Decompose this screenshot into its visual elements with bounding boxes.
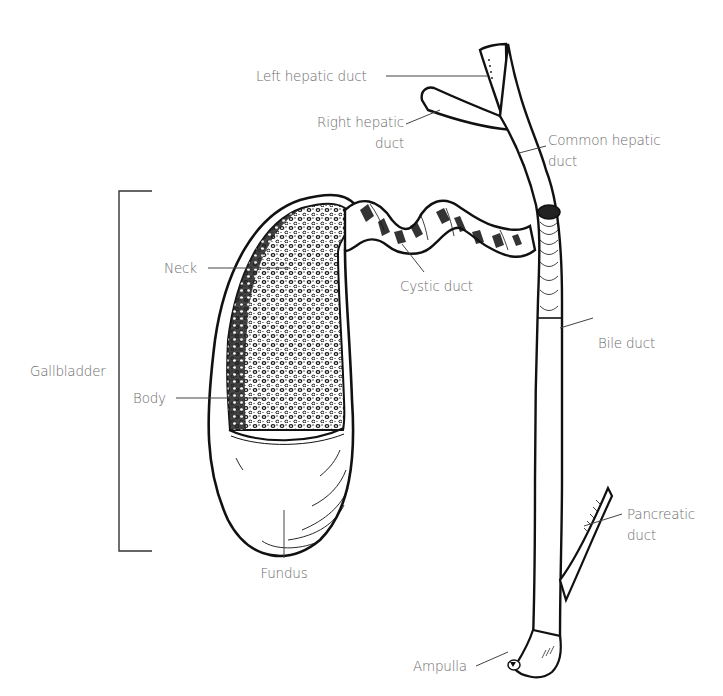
label-pancreatic-duct-line2: duct — [627, 526, 656, 544]
label-pancreatic-duct-line1: Pancreatic — [627, 505, 695, 523]
biliary-anatomy-diagram: Left hepatic duct Right hepatic duct Com… — [0, 0, 723, 696]
label-ampulla: Ampulla — [413, 657, 467, 675]
pancreatic-duct — [560, 488, 612, 600]
label-body: Body — [133, 389, 166, 407]
gallbladder — [209, 195, 361, 556]
leader-ampulla — [476, 652, 508, 666]
label-neck: Neck — [164, 259, 197, 277]
label-right-hepatic-duct-line1: Right hepatic — [300, 113, 404, 131]
leader-right-hepatic — [406, 110, 440, 124]
ampulla — [508, 630, 561, 677]
cystic-duct — [345, 201, 535, 257]
gallbladder-bracket — [119, 191, 152, 551]
label-left-hepatic-duct: Left hepatic duct — [256, 67, 367, 85]
label-common-hepatic-duct-line2: duct — [548, 152, 577, 170]
label-gallbladder: Gallbladder — [30, 362, 106, 380]
label-bile-duct: Bile duct — [598, 334, 655, 352]
label-cystic-duct: Cystic duct — [400, 277, 473, 295]
label-common-hepatic-duct-line1: Common hepatic — [548, 131, 660, 149]
label-right-hepatic-duct-line2: duct — [300, 134, 404, 152]
label-fundus: Fundus — [244, 564, 324, 582]
leader-bile — [560, 318, 593, 328]
